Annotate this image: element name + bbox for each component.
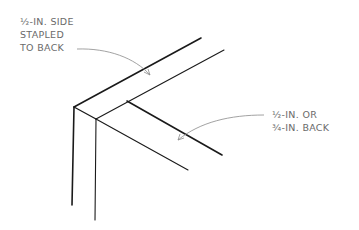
back-annotation-line-1: ½-IN. OR [272,108,329,121]
back-annotation: ½-IN. OR ¾-IN. BACK [272,108,329,134]
side-annotation: ½-IN. SIDE STAPLED TO BACK [20,15,74,54]
side-annotation-line-1: ½-IN. SIDE [20,15,74,28]
back-annotation-line-2: ¾-IN. BACK [272,121,329,134]
side-annotation-line-2: STAPLED [20,28,74,41]
side-end-edge [74,107,96,119]
outer-vertical-edge [72,107,74,205]
back-top-edge [127,101,222,155]
back-lower-edge [96,119,188,170]
inner-vertical-edge [95,119,96,220]
back-leader-line [178,115,264,140]
diagram-canvas: ½-IN. SIDE STAPLED TO BACK ½-IN. OR ¾-IN… [0,0,359,230]
side-annotation-line-3: TO BACK [20,41,74,54]
